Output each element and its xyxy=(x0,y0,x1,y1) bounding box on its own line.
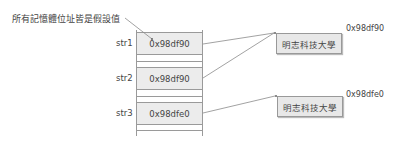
string-literal-address-2: 0x98dfe0 xyxy=(346,90,384,99)
string-literal-box-2: 明志科技大學 xyxy=(277,96,343,117)
pointer-arrows xyxy=(0,0,397,144)
string-literal-box-1: 明志科技大學 xyxy=(276,33,342,54)
string-literal-address-1: 0x98df90 xyxy=(346,24,384,33)
